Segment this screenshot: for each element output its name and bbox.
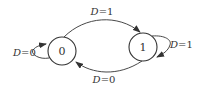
state-1-label: 1	[140, 41, 147, 54]
label-self-loop-0: D=0	[12, 47, 36, 58]
transition-1-to-0	[76, 61, 142, 72]
label-0-to-1: D=1	[90, 6, 114, 17]
state-diagram: 0 1 D=1 D=0 D=0 D=1	[0, 0, 200, 87]
label-1-to-0: D=0	[92, 74, 116, 85]
transition-0-to-1	[64, 20, 140, 37]
label-self-loop-1: D=1	[169, 39, 193, 50]
state-0-label: 0	[59, 45, 66, 58]
